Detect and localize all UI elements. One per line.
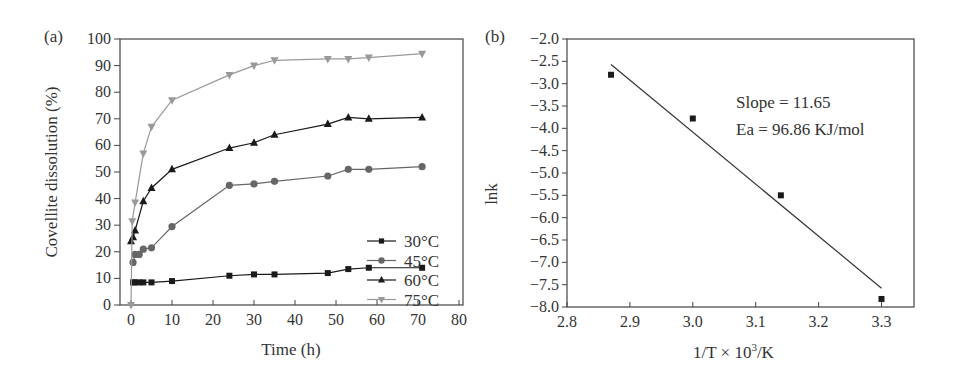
data-point: [418, 113, 426, 121]
data-point: [168, 223, 175, 230]
y-tick-label: −5.0: [530, 164, 559, 181]
y-axis-title-a: Covellite dissolution (%): [42, 87, 61, 258]
panel-a-label: (a): [44, 27, 63, 46]
data-point: [271, 178, 278, 185]
figure: (a) 0102030405060708090100 0102030405060…: [0, 0, 954, 384]
legend-a: 30°C45°C60°C75°C: [367, 232, 439, 310]
legend-marker: [378, 257, 384, 263]
data-point: [139, 150, 147, 158]
y-tick-label: −2.5: [530, 52, 559, 69]
data-point: [324, 56, 332, 64]
y-tick-label: 40: [95, 190, 111, 207]
x-tick-label: 40: [287, 311, 303, 328]
data-point: [140, 246, 147, 253]
y-tick-label: −8.0: [530, 298, 559, 315]
data-point: [344, 56, 352, 64]
x-axis-title-b-unit: /K: [757, 343, 775, 362]
x-tick-label: 30: [246, 311, 262, 328]
x-tick-label: 3.1: [746, 313, 766, 330]
y-tick-label: −3.0: [530, 75, 559, 92]
data-point: [325, 270, 331, 276]
data-point: [129, 259, 136, 266]
x-tick-label: 50: [328, 311, 344, 328]
y-axis-a: 0102030405060708090100: [87, 30, 120, 313]
data-point: [149, 279, 155, 285]
y-tick-label: −7.0: [530, 253, 559, 270]
data-point: [131, 200, 139, 208]
panel-b-label: (b): [485, 27, 505, 46]
y-tick-label: −6.0: [530, 209, 559, 226]
y-tick-label: 30: [95, 216, 111, 233]
y-tick-label: 20: [95, 243, 111, 260]
y-tick-label: 60: [95, 136, 111, 153]
data-point: [226, 182, 233, 189]
data-point: [128, 218, 136, 226]
x-axis-title-b: 1/T × 103/K: [693, 341, 775, 362]
annotation-slope: Slope = 11.65: [736, 93, 830, 112]
plot-frame-b: [567, 39, 914, 307]
x-tick-label: 2.8: [557, 313, 577, 330]
legend-marker: [378, 276, 385, 283]
data-point: [148, 124, 156, 132]
series-45c: [129, 163, 425, 266]
y-tick-label: 90: [95, 57, 111, 74]
y-tick-label: −3.5: [530, 97, 559, 114]
x-tick-label: 3.2: [809, 313, 829, 330]
x-tick-label: 10: [164, 311, 180, 328]
series-group-a: [127, 51, 426, 310]
data-point: [608, 72, 614, 78]
y-tick-label: 70: [95, 110, 111, 127]
data-point: [169, 278, 175, 284]
data-point: [365, 166, 372, 173]
legend-label: 75°C: [404, 291, 439, 310]
x-tick-label: 2.9: [620, 313, 640, 330]
y-tick-label: 80: [95, 83, 111, 100]
data-point: [139, 197, 147, 205]
x-tick-label: 70: [410, 311, 426, 328]
y-tick-label: 10: [95, 269, 111, 286]
legend-label: 45°C: [404, 252, 439, 271]
data-point: [345, 166, 352, 173]
y-tick-label: −7.5: [530, 276, 559, 293]
legend-item: 30°C: [367, 232, 439, 251]
data-point: [148, 183, 156, 191]
x-tick-label: 80: [451, 311, 467, 328]
legend-label: 30°C: [404, 232, 439, 251]
data-point: [324, 172, 331, 179]
data-point: [127, 302, 135, 310]
x-axis-b: 2.82.93.03.13.23.3: [557, 302, 892, 330]
panel-a: (a) 0102030405060708090100 0102030405060…: [42, 27, 467, 359]
y-tick-label: 0: [103, 296, 111, 313]
data-point: [129, 233, 137, 241]
legend-marker: [379, 238, 384, 243]
y-tick-label: 100: [87, 30, 111, 47]
legend-marker: [378, 297, 385, 304]
data-point: [272, 271, 278, 277]
y-tick-label: −6.5: [530, 231, 559, 248]
x-tick-label: 3.0: [683, 313, 703, 330]
y-tick-label: −4.5: [530, 142, 559, 159]
data-point: [345, 266, 351, 272]
x-axis-title-a: Time (h): [261, 340, 320, 359]
x-tick-label: 3.3: [872, 313, 892, 330]
data-point: [778, 192, 784, 198]
legend-item: 60°C: [367, 271, 439, 290]
data-point: [140, 279, 146, 285]
annotation-ea: Ea = 96.86 KJ/mol: [736, 120, 865, 139]
y-tick-label: 50: [95, 163, 111, 180]
data-point: [148, 244, 155, 251]
data-point: [226, 273, 232, 279]
y-tick-label: −5.5: [530, 186, 559, 203]
legend-item: 75°C: [367, 291, 439, 310]
data-point: [344, 113, 352, 121]
y-axis-title-b: lnk: [482, 183, 501, 205]
y-axis-b: −2.0−2.5−3.0−3.5−4.0−4.5−5.0−5.5−6.0−6.5…: [530, 30, 567, 315]
x-tick-label: 0: [127, 311, 135, 328]
data-point: [250, 180, 257, 187]
data-point: [879, 296, 885, 302]
x-axis-title-b-main: 1/T × 10: [693, 343, 751, 362]
x-tick-label: 20: [205, 311, 221, 328]
data-point: [419, 163, 426, 170]
x-tick-label: 60: [369, 311, 385, 328]
panel-b: (b) −2.0−2.5−3.0−3.5−4.0−4.5−5.0−5.5−6.0…: [482, 27, 914, 362]
